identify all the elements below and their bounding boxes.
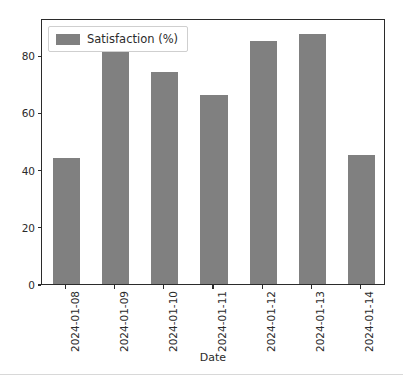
x-tick-mark [311,285,312,289]
bar [299,34,326,284]
y-tick-label: 60 [22,106,35,120]
y-axis: 020406080 [0,19,41,285]
x-tick-mark [163,285,164,289]
x-tick-label: 2024-01-09 [119,291,130,352]
bar [200,95,227,284]
y-tick-mark [38,170,42,171]
y-tick-label: 80 [22,49,35,63]
plot-axes-frame: Satisfaction (%) [41,19,385,285]
y-tick-label: 20 [22,221,35,235]
bar [102,49,129,284]
bar [151,72,178,284]
bottom-divider [0,374,403,384]
legend-swatch-icon [56,34,80,45]
x-tick-label: 2024-01-13 [315,291,326,352]
legend-label: Satisfaction (%) [87,32,178,46]
bar [348,155,375,284]
y-tick-label: 40 [22,164,35,178]
y-tick-mark [38,56,42,57]
x-tick-mark [114,285,115,289]
x-tick-label: 2024-01-11 [217,291,228,352]
x-tick-mark [262,285,263,289]
x-tick-label: 2024-01-08 [70,291,81,352]
x-tick-label: 2024-01-14 [364,291,375,352]
y-tick-label: 0 [28,278,35,292]
bar [250,41,277,284]
x-axis-title: Date [41,351,385,364]
y-tick-mark [38,113,42,114]
bar [53,158,80,284]
x-tick-mark [212,285,213,289]
x-tick-label: 2024-01-10 [168,291,179,352]
plot-area [42,20,384,284]
chart-legend: Satisfaction (%) [48,26,188,52]
x-tick-mark [360,285,361,289]
chart-figure: Satisfaction (%) 020406080 2024-01-08202… [0,0,403,384]
x-tick-mark [65,285,66,289]
y-tick-mark [38,227,42,228]
x-tick-label: 2024-01-12 [266,291,277,352]
